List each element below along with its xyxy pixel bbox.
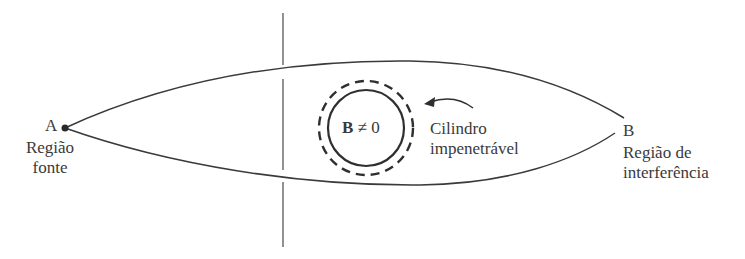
field-relation: ≠ 0 bbox=[358, 118, 380, 137]
source-region-line1: Região bbox=[10, 138, 90, 158]
interference-region-line2: interferência bbox=[623, 163, 709, 183]
annotation-arrow-head bbox=[424, 97, 435, 107]
interference-region-label: Região de interferência bbox=[623, 143, 709, 183]
cylinder-annotation: Cilindro impenetrável bbox=[430, 119, 519, 159]
annotation-arrow-shaft bbox=[430, 99, 473, 108]
interference-region-line1: Região de bbox=[623, 143, 709, 163]
field-symbol: B bbox=[342, 118, 353, 137]
cylinder-annotation-line2: impenetrável bbox=[430, 139, 519, 159]
source-region-label: Região fonte bbox=[10, 138, 90, 178]
source-region-line2: fonte bbox=[10, 158, 90, 178]
point-a-dot bbox=[62, 125, 69, 132]
point-a-label: A bbox=[45, 116, 57, 136]
point-b-label: B bbox=[623, 121, 634, 141]
field-label: B ≠ 0 bbox=[342, 118, 380, 138]
cylinder-annotation-line1: Cilindro bbox=[430, 119, 519, 139]
